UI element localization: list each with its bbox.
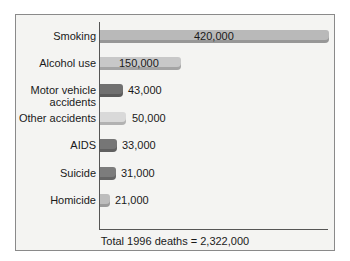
value-label-suicide: 31,000 [121,167,155,180]
value-label-other-accidents: 50,000 [132,112,166,125]
bar-suicide [100,167,116,180]
category-label-motor-vehicle: Motor vehicle [1,84,96,96]
category-label-homicide: Homicide [1,194,96,206]
value-label-aids: 33,000 [122,139,156,152]
value-label-homicide: 21,000 [115,194,149,207]
value-label-alcohol: 150,000 [119,57,159,70]
bar-aids [100,139,117,152]
category-label-motor-vehicle-line2: accidents [1,96,96,108]
category-label-aids: AIDS [1,139,96,151]
category-label-suicide: Suicide [1,167,96,179]
value-label-motor-vehicle: 43,000 [128,84,162,97]
category-label-other-accidents: Other accidents [1,112,96,124]
value-label-smoking: 420,000 [194,30,234,43]
bar-homicide [100,194,110,207]
category-label-alcohol: Alcohol use [1,57,96,69]
x-axis-line [99,229,328,230]
category-label-smoking: Smoking [1,30,96,42]
total-deaths-caption: Total 1996 deaths = 2,322,000 [0,235,350,247]
bar-other-accidents [100,112,126,125]
bar-motor-vehicle [100,84,123,97]
chart-frame [15,14,335,251]
